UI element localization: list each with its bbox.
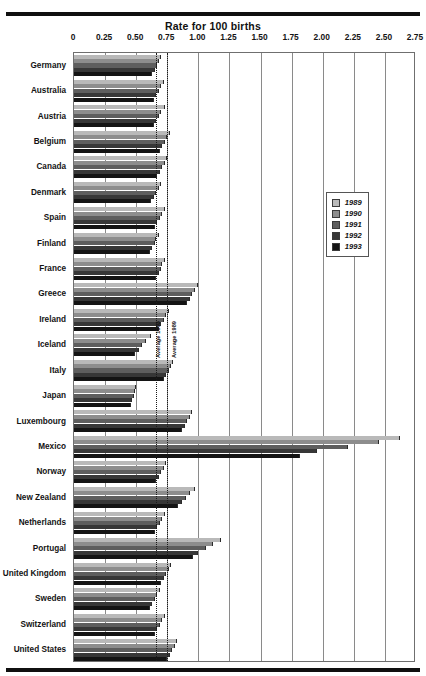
bar (74, 161, 165, 165)
bar (74, 207, 165, 211)
x-tick-label: 2.25 (345, 32, 361, 42)
bar (74, 618, 162, 622)
bar-group (74, 383, 414, 408)
bar (74, 572, 166, 576)
bar-group (74, 256, 414, 281)
bar (74, 436, 400, 440)
y-axis-label: Norway (36, 467, 66, 476)
bar (74, 348, 139, 352)
bar (74, 220, 157, 224)
bar (74, 487, 195, 491)
bar (74, 428, 182, 432)
bar (74, 521, 160, 525)
bar (74, 271, 159, 275)
average-line (167, 53, 168, 661)
x-tick-label: 0.25 (96, 32, 112, 42)
bar (74, 567, 169, 571)
bar (74, 199, 151, 203)
bar (74, 135, 167, 139)
chart-page: Rate for 100 births 00.250.500.751.001.2… (0, 0, 426, 676)
y-axis-label: Netherlands (19, 518, 66, 527)
bar (74, 334, 151, 338)
x-axis-tick-labels: 00.250.500.751.001.251.501.752.002.252.5… (0, 32, 426, 46)
bar (74, 517, 162, 521)
bar (74, 542, 213, 546)
y-axis-label: Italy (50, 365, 66, 374)
bar-group (74, 78, 414, 103)
y-axis-label: Switzerland (21, 619, 67, 628)
bar (74, 225, 155, 229)
bar (74, 593, 157, 597)
bar (74, 657, 167, 661)
bar (74, 144, 162, 148)
bar (74, 165, 162, 169)
y-axis-label: Belgium (34, 136, 66, 145)
bar (74, 360, 173, 364)
bar (74, 84, 161, 88)
bar (74, 461, 166, 465)
bar (74, 301, 187, 305)
y-axis-label: Finland (37, 238, 66, 247)
legend-swatch (332, 221, 340, 229)
bar (74, 283, 198, 287)
bar (74, 343, 142, 347)
y-axis-label: Canada (36, 162, 66, 171)
bar (74, 114, 159, 118)
bar-group (74, 587, 414, 612)
y-axis-label: Ireland (39, 314, 66, 323)
bar (74, 59, 159, 63)
bar (74, 258, 165, 262)
y-axis-label: Portugal (33, 543, 66, 552)
legend-item: 1990 (332, 208, 362, 219)
bar (74, 449, 317, 453)
bar (74, 394, 134, 398)
bar (74, 339, 146, 343)
x-tick-label: 1.25 (220, 32, 236, 42)
legend-label: 1990 (345, 209, 362, 218)
legend-swatch (332, 199, 340, 207)
bar-group (74, 511, 414, 536)
bar (74, 233, 159, 237)
bar (74, 648, 172, 652)
y-axis-label: Denmark (31, 187, 66, 196)
y-axis-label: France (39, 264, 66, 273)
bar (74, 216, 160, 220)
bar (74, 496, 186, 500)
bar-group (74, 53, 414, 78)
bar-group (74, 638, 414, 663)
bar (74, 588, 160, 592)
bar (74, 410, 192, 414)
bar-group (74, 409, 414, 434)
bar (74, 93, 156, 97)
bar (74, 500, 182, 504)
y-axis-label: Iceland (38, 340, 66, 349)
bar (74, 72, 152, 76)
bar (74, 191, 156, 195)
bar (74, 454, 300, 458)
bar (74, 262, 162, 266)
bar (74, 470, 161, 474)
legend-item: 1991 (332, 219, 362, 230)
bar (74, 123, 154, 127)
bar (74, 241, 155, 245)
bar (74, 322, 161, 326)
bar (74, 398, 132, 402)
x-tick-label: 1.50 (251, 32, 267, 42)
bar (74, 170, 160, 174)
y-axis-label: Austria (38, 111, 66, 120)
y-axis-label: Japan (42, 391, 66, 400)
bar (74, 445, 348, 449)
x-tick-label: 2.75 (407, 32, 423, 42)
y-axis-label: Sweden (35, 594, 66, 603)
legend-item: 1993 (332, 241, 362, 252)
average-line-label: Average 1989 (171, 321, 177, 358)
bar-group (74, 536, 414, 561)
bar (74, 504, 178, 508)
bar (74, 466, 164, 470)
bar (74, 68, 155, 72)
y-axis-label: Luxembourg (16, 416, 66, 425)
bar (74, 292, 192, 296)
bar (74, 55, 161, 59)
bar (74, 195, 154, 199)
y-axis-label: Germany (31, 60, 67, 69)
